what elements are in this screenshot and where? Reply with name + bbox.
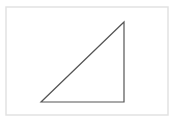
frame-border xyxy=(6,7,168,115)
diagram-canvas xyxy=(0,0,179,121)
